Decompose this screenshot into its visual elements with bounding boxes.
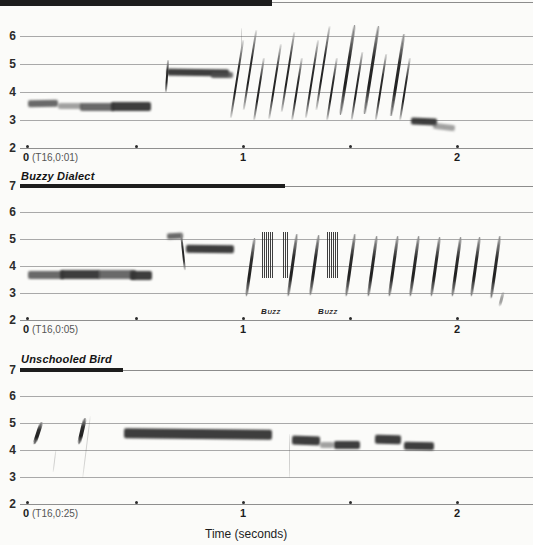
note-downslur (399, 58, 411, 120)
gridline-4 (20, 92, 533, 93)
trace-terminal (411, 117, 437, 125)
panel-heading-rule (20, 368, 123, 372)
xtick-0-5 (135, 317, 138, 320)
gridline-5 (20, 64, 533, 65)
xtick-2 (456, 501, 459, 504)
trace-buzzy-intro (28, 271, 64, 279)
gridline-5 (20, 423, 533, 424)
recording-label: (T16,0:01) (32, 152, 78, 163)
note-downslur (287, 234, 298, 296)
ytick-7: 7 (0, 365, 16, 375)
trace-tonal-band (167, 69, 229, 77)
xticklabel-1: 1 (240, 324, 246, 335)
trace-short-band-4 (404, 442, 434, 451)
trace-long-tonal-band (124, 428, 272, 440)
note-downslur (326, 58, 338, 120)
xticklabel-1: 1 (240, 508, 246, 519)
xticklabel-2: 2 (454, 508, 460, 519)
xticklabel-0: 0 (23, 508, 29, 519)
xtick-0 (26, 145, 29, 148)
note-downslur (253, 58, 265, 120)
xtick-0 (26, 501, 29, 504)
annotation-buzz-2: Buzz (318, 307, 338, 316)
ytick-5: 5 (0, 59, 16, 69)
trace-buzzy-intro-4 (130, 271, 152, 280)
note-downslur (351, 52, 364, 120)
xtick-1-5 (349, 317, 352, 320)
gridline-6 (20, 396, 533, 397)
recording-label: (T16,0:05) (32, 324, 78, 335)
ytick-6: 6 (0, 391, 16, 401)
note-intro-downslur-1 (32, 422, 43, 444)
xtick-1-5 (349, 501, 352, 504)
trace-buzzy-intro-3 (98, 270, 136, 279)
gridline-6 (20, 36, 533, 37)
ytick-2: 2 (0, 499, 16, 509)
note-downslur-terminal (498, 292, 504, 306)
note-downslur (490, 236, 501, 298)
note-downslur (345, 234, 356, 296)
ytick-2: 2 (0, 315, 16, 325)
ytick-3: 3 (0, 472, 16, 482)
panel-heading-thin-rule (123, 370, 533, 371)
ytick-6: 6 (0, 31, 16, 41)
note-intro-harmonic-1 (53, 450, 57, 472)
note-intro-downslur-2 (77, 418, 87, 444)
panel-title-buzzy-dialect: Buzzy Dialect (21, 170, 95, 182)
ytick-4: 4 (0, 261, 16, 271)
trace-short-band-2 (334, 441, 360, 449)
trace-buzzy-intro-2 (58, 103, 82, 109)
gridline-6 (20, 212, 533, 213)
ytick-4: 4 (0, 445, 16, 455)
trace-buzzy-intro-2 (60, 270, 100, 279)
ytick-3: 3 (0, 115, 16, 125)
trace-buzzy-intro (28, 100, 58, 108)
ytick-7: 7 (0, 181, 16, 191)
gridline-4 (20, 266, 533, 267)
note-downslur (315, 26, 331, 110)
annotation-buzz-1: Buzz (261, 307, 281, 316)
trace-whistle-band (186, 245, 234, 254)
xtick-1 (242, 145, 245, 148)
ytick-2: 2 (0, 143, 16, 153)
note-downslur (339, 25, 356, 115)
trace-tonal-band-tail (211, 72, 233, 78)
xtick-0-5 (135, 501, 138, 504)
panel-heading-thin-rule (285, 186, 533, 187)
trace-buzzy-intro-3 (80, 103, 114, 111)
xtick-1-5 (349, 145, 352, 148)
note-downslur (390, 34, 405, 116)
panel-unlabeled-dialect: 6 5 4 3 2 (0, 0, 533, 170)
note-downslur (230, 40, 245, 118)
trace-faint-vertical (289, 434, 290, 478)
ytick-6: 6 (0, 207, 16, 217)
note-downslur (268, 44, 282, 119)
note-downslur-hair (241, 28, 242, 48)
x-axis-line (20, 148, 533, 149)
panel-unschooled-bird: Unschooled Bird 7 6 5 4 3 2 (0, 350, 533, 545)
note-downslur (291, 58, 303, 120)
note-downslur (363, 26, 379, 114)
xtick-0-5 (135, 145, 138, 148)
trace-short-band-3 (375, 435, 401, 445)
xticklabel-0: 0 (23, 324, 29, 335)
xticklabel-2: 2 (454, 152, 460, 163)
panel-buzzy-dialect: Buzzy Dialect 7 6 5 4 3 2 (0, 170, 533, 350)
x-axis-line (20, 504, 533, 505)
ytick-5: 5 (0, 418, 16, 428)
gridline-3 (20, 120, 533, 121)
ytick-4: 4 (0, 87, 16, 97)
note-downslur (305, 40, 320, 118)
xticklabel-1: 1 (240, 152, 246, 163)
xtick-0 (26, 317, 29, 320)
x-axis-line (20, 320, 533, 321)
note-downslur (243, 30, 258, 110)
xticklabel-0: 0 (23, 152, 29, 163)
figure-sheet: 6 5 4 3 2 (0, 0, 533, 545)
gridline-3 (20, 293, 533, 294)
trace-short-band-1 (292, 436, 320, 446)
xtick-2 (456, 317, 459, 320)
ytick-5: 5 (0, 234, 16, 244)
note-downslur (245, 238, 256, 296)
gridline-5 (20, 239, 533, 240)
